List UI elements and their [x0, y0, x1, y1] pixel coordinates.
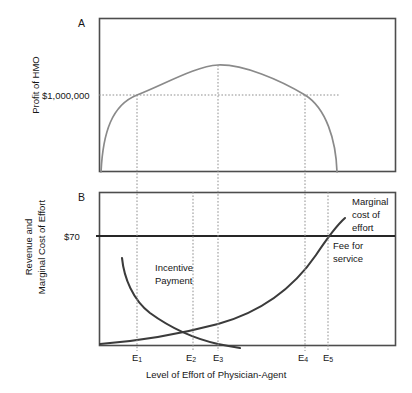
panel-b-y-axis-label-line2: Marginal Cost of Effort: [36, 167, 48, 327]
x-tick-label-e4: E4: [298, 352, 308, 365]
x-tick-label-e2: E2: [186, 352, 196, 365]
x-tick-label-e1: E1: [132, 352, 142, 365]
x-tick-label-e5: E5: [323, 352, 333, 365]
panel-b-y-axis-label-line1: Revenue and: [23, 167, 35, 327]
x-tick-e1-subscript: 1: [138, 356, 142, 363]
annotation-fee-for-service-line1: Fee for: [333, 240, 363, 252]
panel-a-y-tick-1000000: $1,000,000: [42, 90, 90, 102]
annotation-incentive-payment-line1: Incentive: [155, 262, 193, 274]
profit-of-hmo-curve: [101, 65, 337, 172]
annotation-marginal-cost-line2: cost of: [352, 209, 380, 221]
annotation-marginal-cost-line3: effort: [352, 222, 373, 234]
annotation-marginal-cost-line1: Marginal: [352, 196, 388, 208]
panel-a-letter: A: [78, 17, 85, 30]
panel-b-letter: B: [78, 191, 85, 204]
x-tick-e2-subscript: 2: [192, 356, 196, 363]
panel-b-y-tick-70: $70: [64, 231, 80, 243]
x-tick-e3-subscript: 3: [219, 356, 223, 363]
annotation-incentive-payment-line2: Payment: [155, 275, 193, 287]
x-tick-label-e3: E3: [213, 352, 223, 365]
panel-a-y-axis-label: Profit of HMO: [30, 30, 42, 140]
figure-container: A Profit of HMO $1,000,000 B Revenue and…: [0, 0, 412, 393]
x-axis-title: Level of Effort of Physician-Agent: [146, 369, 286, 381]
annotation-fee-for-service-line2: service: [333, 253, 363, 265]
x-tick-e4-subscript: 4: [304, 356, 308, 363]
economics-figure-svg: [0, 0, 412, 393]
x-tick-e5-subscript: 5: [329, 356, 333, 363]
